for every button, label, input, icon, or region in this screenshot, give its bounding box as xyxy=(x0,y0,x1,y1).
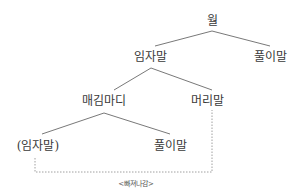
node-head-noun: 머리말 xyxy=(191,94,224,108)
syntax-tree-diagram: 월 임자말 풀이말 매김마디 머리말 (임자말) 풀이말 <빠져나감> xyxy=(0,0,306,196)
edge-root-predicate xyxy=(212,31,270,46)
movement-label: <빠져나감> xyxy=(118,180,154,189)
node-subject: 임자말 xyxy=(134,50,167,64)
node-root: 월 xyxy=(207,14,218,28)
edge-clause-predicate xyxy=(104,113,170,134)
edge-clause-gap xyxy=(42,113,104,134)
node-predicate-top: 풀이말 xyxy=(254,50,287,64)
edge-root-subject xyxy=(155,31,212,46)
edge-subject-relative-clause xyxy=(114,68,151,90)
tree-edges xyxy=(0,0,306,196)
node-relative-clause: 매김마디 xyxy=(82,94,126,108)
node-gap-subject: (임자말) xyxy=(17,139,59,153)
node-predicate-inner: 풀이말 xyxy=(154,139,187,153)
edge-subject-head-noun xyxy=(151,68,212,90)
